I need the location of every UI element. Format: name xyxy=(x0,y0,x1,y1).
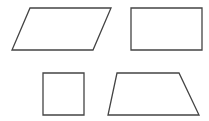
rectangle-shape xyxy=(131,8,202,50)
square-shape xyxy=(43,73,84,115)
trapezoid-shape xyxy=(108,73,199,115)
parallelogram-shape xyxy=(12,8,111,50)
shapes-diagram xyxy=(0,0,209,121)
